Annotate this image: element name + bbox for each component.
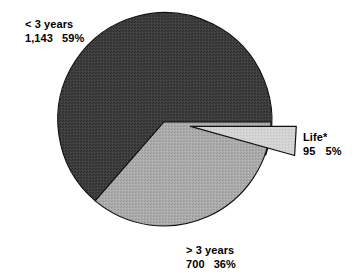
slice-label-gt3-name: > 3 years [186, 243, 236, 257]
slice-label-life-value: 95 [303, 144, 315, 158]
slice-label-lt3-values: 1,14359% [25, 31, 84, 45]
slice-label-lt3-name: < 3 years [25, 17, 84, 31]
slice-label-life-values: 955% [303, 144, 342, 158]
slice-label-gt3-value: 700 [186, 257, 205, 271]
slice-label-gt3: > 3 years 70036% [186, 243, 236, 271]
slice-label-gt3-percent: 36% [214, 257, 236, 271]
slice-label-life-percent: 5% [325, 144, 341, 158]
slice-label-life: Life* 955% [303, 130, 342, 158]
slice-label-lt3-value: 1,143 [25, 31, 53, 45]
pie-chart-page: < 3 years 1,14359% > 3 years 70036% Life… [0, 0, 355, 279]
slice-label-lt3: < 3 years 1,14359% [25, 17, 84, 45]
slice-label-life-name: Life* [303, 130, 342, 144]
slice-label-gt3-values: 70036% [186, 257, 236, 271]
slice-label-lt3-percent: 59% [62, 31, 84, 45]
